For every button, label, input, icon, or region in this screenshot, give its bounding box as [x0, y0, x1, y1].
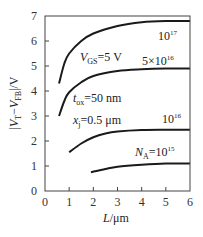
y-tick-label: 7 [31, 9, 37, 23]
label-1e17: 1017 [158, 29, 178, 43]
y-axis-ticks: 01234567 [31, 9, 49, 198]
y-tick-label: 5 [31, 59, 37, 73]
label-5e16: 5×1016 [142, 54, 174, 68]
x-tick-label: 5 [163, 195, 169, 209]
x-tick-label: 4 [139, 195, 145, 209]
x-tick-label: 6 [187, 195, 193, 209]
y-tick-label: 6 [31, 34, 37, 48]
y-tick-label: 0 [31, 184, 37, 198]
y-tick-label: 1 [31, 159, 37, 173]
y-axis-label: |VT−VFB|/V [7, 76, 23, 129]
annotation-vgs: VGS=5 V [80, 50, 122, 66]
chart: 0123456 01234567 1017 VGS=5 V 5×1016 tox… [0, 0, 203, 237]
annotation-xj: xj=0.5 μm [72, 113, 122, 129]
x-tick-label: 2 [90, 195, 96, 209]
x-axis-ticks: 0123456 [42, 187, 193, 209]
series-curve [59, 68, 190, 116]
x-tick-label: 0 [42, 195, 48, 209]
annotation-tox: tox=50 nm [73, 91, 122, 107]
label-1e16: 1016 [162, 112, 182, 126]
x-tick-label: 1 [66, 195, 72, 209]
y-tick-label: 2 [31, 134, 37, 148]
y-tick-label: 4 [31, 84, 37, 98]
series-curve [91, 163, 190, 172]
x-axis-label: L/μm [102, 211, 129, 225]
label-1e15: NA=1015 [134, 145, 175, 161]
y-tick-label: 3 [31, 109, 37, 123]
x-tick-label: 3 [115, 195, 121, 209]
